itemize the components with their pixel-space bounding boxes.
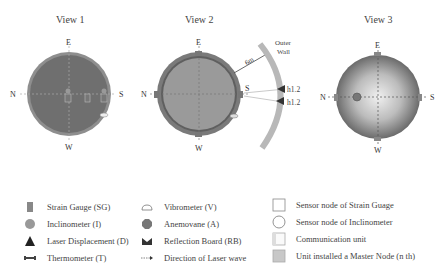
legend-inclinometer: Inclinometer (I) xyxy=(22,218,101,230)
svg-text:E: E xyxy=(196,38,201,47)
legend-inclinometer-sensor-node: Sensor node of Inclinometer xyxy=(271,216,393,228)
legend-vibrometer: Vibrometer (V) xyxy=(139,201,217,213)
legend-laser-direction: Direction of Laser wave xyxy=(139,252,246,264)
inclinometer-icon xyxy=(102,89,107,94)
svg-text:h1.2: h1.2 xyxy=(287,98,300,107)
svg-text:W: W xyxy=(195,144,203,153)
strain-gauge-icon xyxy=(85,94,90,102)
svg-text:S: S xyxy=(119,90,123,99)
legend-master-node: Unit installed a Master Node (n th) xyxy=(271,250,415,262)
svg-text:E: E xyxy=(375,41,380,50)
legend-laser-displacement: Laser Displacement (D) xyxy=(22,235,129,247)
communication-unit-icon xyxy=(154,91,159,98)
svg-text:Outer: Outer xyxy=(275,39,292,47)
view1-diagram xyxy=(20,46,116,140)
legend-communication-unit: Communication unit xyxy=(271,233,366,245)
svg-text:S: S xyxy=(430,93,434,102)
svg-text:Wall: Wall xyxy=(277,48,290,56)
diagram-canvas: N S E W 6m N S E W Outer Wall h1.2 h1.2 xyxy=(0,0,444,180)
svg-text:N: N xyxy=(320,93,326,102)
svg-text:E: E xyxy=(66,38,71,47)
legend-strain-gauge: Strain Gauge (SG) xyxy=(22,201,110,213)
view3-diagram xyxy=(328,50,428,146)
strain-gauge-icon xyxy=(65,94,71,102)
strain-gauge-icon xyxy=(101,94,107,102)
view2-diagram: 6m xyxy=(150,44,285,148)
communication-unit-icon xyxy=(195,51,202,56)
legend-anemovane: Anemovane (A) xyxy=(139,218,219,230)
distance-label: 6m xyxy=(243,55,255,67)
inclinometer-sensor-node-icon xyxy=(353,93,361,101)
svg-text:S: S xyxy=(245,84,249,93)
inclinometer-icon xyxy=(66,89,71,94)
svg-text:W: W xyxy=(374,146,382,155)
communication-unit-icon xyxy=(238,91,243,98)
svg-text:N: N xyxy=(141,90,147,99)
vibrometer-icon xyxy=(100,113,108,117)
svg-text:W: W xyxy=(65,143,73,152)
svg-text:h1.2: h1.2 xyxy=(287,85,300,94)
communication-unit-icon xyxy=(195,132,202,137)
legend-thermometer: Thermometer (T) xyxy=(22,252,106,264)
outer-wall xyxy=(260,44,281,148)
vibrometer-icon xyxy=(230,114,238,118)
svg-text:N: N xyxy=(10,90,16,99)
legend-reflection-board: Reflection Board (RB) xyxy=(139,235,241,247)
legend-sg-sensor-node: Sensor node of Strain Guage xyxy=(271,199,394,211)
